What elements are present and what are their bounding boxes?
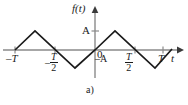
figure-caption: a) [86, 85, 94, 95]
y-axis-label: f(t) [72, 3, 85, 14]
amplitude-positive-label: A [82, 25, 90, 36]
neg-half-period-denominator: 2 [50, 63, 58, 73]
half-period-denominator: 2 [125, 63, 133, 73]
x-axis-label: t [171, 53, 174, 64]
half-period-fraction: T2 [125, 52, 133, 73]
figure-container: f(t) A 0 –A –T –T2 T2 T t a) [0, 0, 188, 105]
x-tick-label-neg-half-period: –T2 [45, 52, 58, 73]
x-axis-arrow-icon [177, 47, 184, 54]
neg-half-period-fraction: T2 [50, 52, 58, 73]
amplitude-negative-label: –A [95, 54, 107, 64]
y-axis-arrow-icon [92, 6, 99, 13]
x-tick-label-neg-period: –T [6, 53, 18, 64]
x-tick-label-period: T [158, 53, 164, 64]
x-tick-label-half-period: T2 [125, 52, 133, 73]
